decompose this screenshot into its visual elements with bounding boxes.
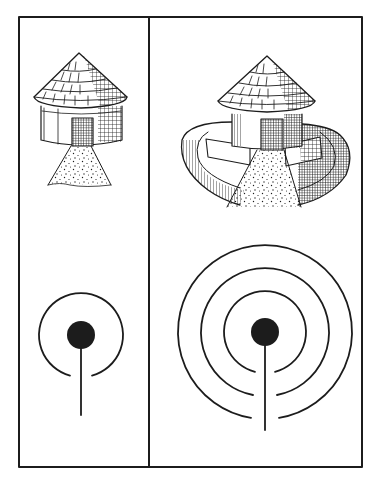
thatched-roof bbox=[218, 56, 315, 112]
figure-canvas bbox=[0, 0, 382, 486]
center-dot bbox=[251, 318, 279, 346]
single-ring-symbol bbox=[39, 293, 123, 415]
simple-hut-illustration bbox=[34, 53, 127, 187]
hut-door bbox=[72, 118, 93, 146]
triple-ring-symbol bbox=[178, 245, 352, 430]
enclosed-hut-illustration bbox=[182, 56, 350, 207]
center-dot bbox=[67, 321, 95, 349]
hut-door bbox=[261, 119, 283, 150]
thatched-roof bbox=[34, 53, 127, 108]
